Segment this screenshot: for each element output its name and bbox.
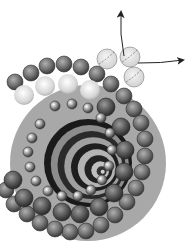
inner-sphere	[115, 163, 133, 181]
outer-sphere	[73, 59, 89, 75]
light-sphere	[58, 74, 78, 94]
small-sphere	[43, 186, 53, 196]
outer-sphere	[126, 101, 142, 117]
small-sphere	[57, 191, 67, 201]
small-sphere	[104, 161, 114, 171]
small-sphere	[50, 101, 60, 111]
outer-sphere	[89, 66, 105, 82]
outer-sphere	[62, 224, 78, 240]
inner-sphere	[105, 184, 123, 202]
outer-sphere	[39, 58, 55, 74]
inner-sphere	[71, 205, 89, 223]
small-sphere	[23, 147, 33, 157]
outer-sphere	[78, 223, 94, 239]
spiral-ring	[101, 170, 105, 174]
light-sphere	[80, 80, 100, 100]
small-sphere	[107, 145, 117, 155]
inner-sphere	[53, 203, 71, 221]
outer-sphere	[56, 56, 72, 72]
small-sphere	[83, 103, 93, 113]
outer-sphere	[134, 164, 150, 180]
outer-sphere	[47, 221, 63, 237]
small-sphere	[97, 175, 107, 185]
outer-sphere	[19, 206, 35, 222]
inner-sphere	[4, 171, 22, 189]
small-sphere	[25, 162, 35, 172]
small-sphere	[86, 185, 96, 195]
small-sphere	[27, 133, 37, 143]
outer-sphere	[137, 148, 153, 164]
sphere-shell-diagram	[0, 0, 189, 246]
inner-sphere	[90, 198, 108, 216]
outer-sphere	[93, 217, 109, 233]
small-sphere	[67, 99, 77, 109]
outer-sphere	[128, 180, 144, 196]
outer-sphere	[107, 207, 123, 223]
light-sphere	[14, 85, 34, 105]
inner-sphere	[15, 189, 33, 207]
arrow-right-icon	[138, 60, 183, 63]
small-sphere	[35, 119, 45, 129]
small-sphere	[31, 176, 41, 186]
outer-sphere	[116, 88, 132, 104]
small-sphere	[73, 191, 83, 201]
outer-sphere	[23, 65, 39, 81]
diagram-canvas	[0, 0, 189, 246]
small-sphere	[96, 113, 106, 123]
outer-sphere	[137, 131, 153, 147]
inner-sphere	[33, 197, 51, 215]
inner-sphere	[116, 141, 134, 159]
small-sphere	[105, 128, 115, 138]
outer-sphere	[103, 76, 119, 92]
outer-sphere	[133, 115, 149, 131]
light-sphere	[35, 76, 55, 96]
